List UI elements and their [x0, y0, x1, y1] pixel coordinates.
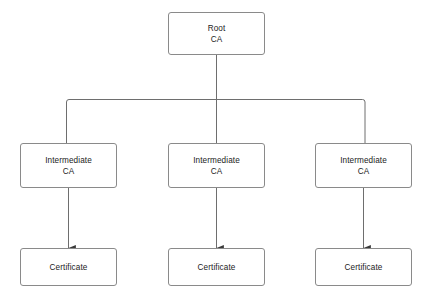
- ca-hierarchy-diagram: Root CA Intermediate CA Intermediate CA …: [0, 0, 432, 302]
- edge-bus-left: [67, 100, 217, 144]
- node-intermediate-ca-1-line-1: Intermediate: [45, 155, 92, 166]
- node-certificate-2-line-1: Certificate: [198, 262, 236, 273]
- node-root-ca[interactable]: Root CA: [168, 12, 265, 55]
- node-intermediate-ca-2[interactable]: Intermediate CA: [168, 143, 265, 188]
- node-certificate-3-line-1: Certificate: [345, 262, 383, 273]
- node-root-ca-line-1: Root: [208, 23, 226, 34]
- node-intermediate-ca-3-line-1: Intermediate: [340, 155, 387, 166]
- node-certificate-1-line-1: Certificate: [50, 262, 88, 273]
- node-intermediate-ca-1-line-2: CA: [63, 166, 75, 177]
- node-certificate-2[interactable]: Certificate: [168, 248, 265, 286]
- node-certificate-1[interactable]: Certificate: [20, 248, 117, 286]
- edge-bus-right: [217, 100, 366, 144]
- node-intermediate-ca-2-line-1: Intermediate: [193, 155, 240, 166]
- node-root-ca-line-2: CA: [211, 34, 223, 45]
- node-intermediate-ca-1[interactable]: Intermediate CA: [20, 143, 117, 188]
- node-intermediate-ca-3[interactable]: Intermediate CA: [315, 143, 412, 188]
- node-intermediate-ca-3-line-2: CA: [358, 166, 370, 177]
- node-certificate-3[interactable]: Certificate: [315, 248, 412, 286]
- node-intermediate-ca-2-line-2: CA: [211, 166, 223, 177]
